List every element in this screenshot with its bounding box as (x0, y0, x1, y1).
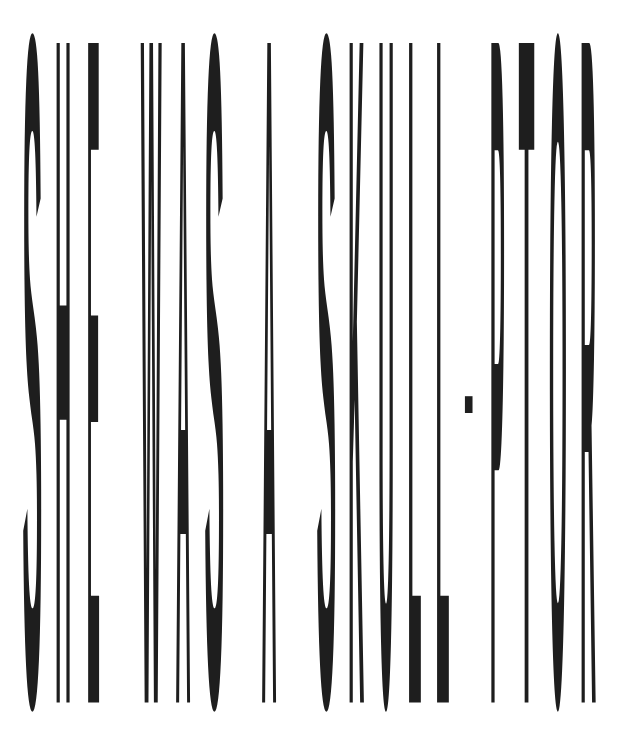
headline-letter-glyph: R (580, 0, 596, 741)
headline-letter-glyph: P (490, 0, 505, 741)
headline-letter-glyph: W (141, 0, 162, 741)
headline-letter: P (490, 0, 505, 741)
headline-letter: H (55, 0, 71, 741)
headline-letter: A (262, 0, 277, 741)
headline-letter-glyph: O (549, 0, 567, 741)
headline-letter-glyph: T (519, 0, 535, 741)
headline-letter: A (176, 0, 191, 741)
headline-letter: S (204, 0, 224, 741)
headline-letter: S (316, 0, 336, 741)
headline-letter: E (87, 0, 100, 741)
headline-letter-glyph: S (316, 0, 336, 741)
headline-letter-glyph: L (408, 0, 422, 741)
headline-letter: S (22, 0, 42, 741)
headline-letter-glyph: H (55, 0, 71, 741)
headline-letter-glyph: L (436, 0, 450, 741)
headline-letter: L (408, 0, 422, 741)
headline-letter-glyph: A (262, 0, 277, 741)
headline-letter-glyph: E (87, 0, 100, 741)
headline-letter: U (378, 0, 394, 741)
headline-letter-glyph: A (176, 0, 191, 741)
headline-letter: L (436, 0, 450, 741)
headline-letter-glyph: U (378, 0, 394, 741)
headline-letter: K (348, 0, 364, 741)
headline-letter-glyph: S (22, 0, 42, 741)
headline-letter: W (141, 0, 162, 741)
headline-letter: - (464, 0, 474, 741)
headline-letter: O (549, 0, 567, 741)
headline-letter-glyph: - (464, 320, 474, 462)
headline-letter-glyph: K (348, 0, 364, 741)
headline-letter: T (519, 0, 535, 741)
headline-letter: R (580, 0, 596, 741)
headline-letter-glyph: S (204, 0, 224, 741)
